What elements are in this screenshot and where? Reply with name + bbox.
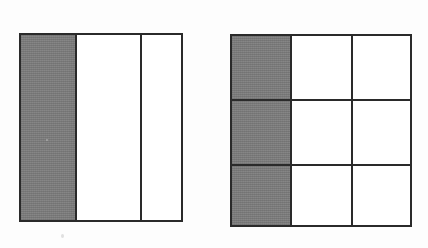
cell-ninths-0 xyxy=(232,36,290,99)
paper-grain-texture xyxy=(232,166,290,225)
divider-thirds-v1 xyxy=(75,35,77,220)
cell-ninths-3 xyxy=(232,101,290,164)
divider-ninths-h2 xyxy=(232,164,410,166)
fraction-figure-ninths xyxy=(230,34,412,227)
cell-ninths-4 xyxy=(292,101,351,164)
cell-thirds-1 xyxy=(77,35,140,220)
cell-thirds-2 xyxy=(142,35,181,220)
fraction-figure-thirds xyxy=(19,33,183,222)
divider-ninths-v2 xyxy=(351,36,353,225)
diagram-canvas xyxy=(0,0,428,248)
paper-grain-texture xyxy=(232,101,290,164)
divider-ninths-h1 xyxy=(232,99,410,101)
paper-grain-texture xyxy=(21,35,75,220)
divider-ninths-v1 xyxy=(290,36,292,225)
paper-grain-texture xyxy=(232,36,290,99)
cell-ninths-1 xyxy=(292,36,351,99)
cell-ninths-7 xyxy=(292,166,351,225)
cell-thirds-0 xyxy=(21,35,75,220)
scan-speck xyxy=(46,139,48,141)
divider-thirds-v2 xyxy=(140,35,142,220)
cell-ninths-6 xyxy=(232,166,290,225)
scan-speck xyxy=(61,234,64,238)
cell-ninths-2 xyxy=(353,36,410,99)
cell-ninths-8 xyxy=(353,166,410,225)
cell-ninths-5 xyxy=(353,101,410,164)
